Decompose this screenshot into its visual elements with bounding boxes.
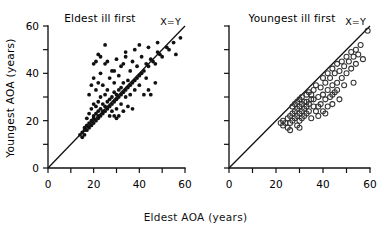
data-point (103, 43, 107, 47)
data-point (137, 83, 141, 87)
data-point (140, 55, 144, 59)
data-point (179, 36, 183, 40)
data-point (94, 88, 98, 92)
data-point (124, 55, 128, 59)
data-point (121, 81, 125, 85)
data-point (351, 80, 356, 85)
panel-left-xy-label: X=Y (160, 16, 181, 27)
data-point (103, 62, 107, 66)
data-point (94, 60, 98, 64)
data-point (96, 81, 100, 85)
data-point (131, 107, 135, 111)
data-point (99, 71, 103, 75)
data-point (360, 57, 365, 62)
x-tick-label: 20 (269, 178, 282, 190)
data-point (137, 43, 141, 47)
data-point (108, 76, 112, 80)
data-point (147, 64, 151, 68)
data-point (321, 76, 326, 81)
x-axis-label: Eldest AOA (years) (144, 211, 248, 223)
data-point (105, 88, 109, 92)
data-point (87, 112, 91, 116)
panel-left-y-ticks (43, 26, 48, 168)
panel-eldest-ill-first: Eldest ill first X=Y 0204060 0204060 You… (0, 0, 196, 232)
data-point (321, 92, 326, 97)
x-tick-label: 20 (87, 178, 100, 190)
data-point (85, 116, 89, 120)
panel-left-y-tick-labels: 0204060 (26, 20, 39, 174)
data-point (172, 41, 176, 45)
figure-container: Eldest ill first X=Y 0204060 0204060 You… (0, 0, 391, 232)
data-point (349, 66, 354, 71)
data-point (133, 48, 137, 52)
data-point (112, 69, 116, 73)
data-point (124, 95, 128, 99)
data-point (133, 88, 137, 92)
panel-right-x-tick-labels: 0204060 (226, 178, 377, 190)
data-point (358, 42, 363, 47)
data-point (353, 47, 358, 52)
data-point (124, 50, 128, 54)
data-point (328, 76, 333, 81)
data-point (344, 54, 349, 59)
panel-right-svg: Youngest ill first X=Y 0204060 (196, 0, 391, 232)
data-point (121, 62, 125, 66)
data-point (147, 88, 151, 92)
y-axis-label: Youngest AOA (years) (4, 38, 16, 159)
panel-right-y-ticks (224, 26, 229, 168)
data-point (153, 62, 157, 66)
data-point (119, 86, 123, 90)
data-point (344, 71, 349, 76)
data-point (128, 69, 132, 73)
panel-left-title: Eldest ill first (64, 12, 135, 24)
data-point (147, 45, 151, 49)
data-point (117, 74, 121, 78)
data-point (156, 41, 160, 45)
data-point (339, 76, 344, 81)
data-point (337, 97, 342, 102)
data-point (99, 55, 103, 59)
data-point (110, 109, 114, 113)
data-point (144, 76, 148, 80)
data-point (112, 81, 116, 85)
data-point (135, 64, 139, 68)
data-point (83, 133, 87, 137)
data-point (313, 109, 318, 114)
data-point (108, 114, 112, 118)
panel-youngest-ill-first: Youngest ill first X=Y 0204060 (196, 0, 391, 232)
panel-left-identity-line (48, 26, 185, 168)
y-tick-label: 40 (26, 67, 39, 79)
data-point (128, 93, 132, 97)
data-point (96, 100, 100, 104)
data-point (316, 113, 321, 118)
panel-left-svg: Eldest ill first X=Y 0204060 0204060 You… (0, 0, 196, 232)
data-point (330, 66, 335, 71)
data-point (94, 105, 98, 109)
x-tick-label: 40 (316, 178, 329, 190)
data-point (353, 61, 358, 66)
data-point (110, 95, 114, 99)
data-point (115, 57, 119, 61)
data-point (115, 116, 119, 120)
data-point (103, 93, 107, 97)
x-tick-label: 0 (45, 178, 52, 190)
data-point (87, 93, 91, 97)
panel-right-data-points (278, 28, 370, 132)
y-tick-label: 20 (26, 115, 39, 127)
data-point (131, 60, 135, 64)
data-point (153, 81, 157, 85)
data-point (160, 55, 164, 59)
data-point (337, 68, 342, 73)
data-point (142, 93, 146, 97)
x-tick-label: 40 (133, 178, 146, 190)
data-point (92, 76, 96, 80)
data-point (142, 69, 146, 73)
data-point (101, 83, 105, 87)
data-point (325, 71, 330, 76)
y-tick-label: 60 (26, 20, 39, 32)
data-point (309, 116, 314, 121)
y-tick-label: 0 (32, 162, 39, 174)
data-point (346, 59, 351, 64)
data-point (323, 80, 328, 85)
panel-right-title: Youngest ill first (247, 12, 335, 24)
